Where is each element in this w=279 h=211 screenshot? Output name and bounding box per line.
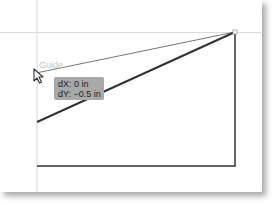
measurement-tooltip: dX: 0 in dY: −0.5 in — [54, 77, 104, 100]
anchor-point-handle[interactable] — [233, 30, 237, 34]
arrow-cursor-icon — [33, 68, 45, 84]
tooltip-dx: dX: 0 in — [58, 79, 100, 89]
drawing-stage: Guide dX: 0 in dY: −0.5 in — [0, 0, 279, 211]
drag-line — [36, 32, 235, 73]
drawing-canvas[interactable] — [0, 0, 279, 211]
tooltip-dy: dY: −0.5 in — [58, 89, 100, 99]
